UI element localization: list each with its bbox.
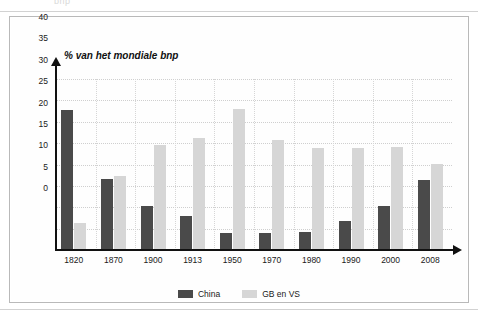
bar-gb-en-vs-1870 [114, 176, 126, 250]
bar-gb-en-vs-1970 [272, 140, 284, 250]
x-tick-label-1990: 1990 [342, 255, 361, 265]
bar-gb-en-vs-1900 [154, 145, 166, 250]
gridline-x-4 [214, 79, 215, 250]
page-text-fragment: bnp [54, 0, 71, 6]
plot-area [56, 79, 452, 250]
bar-china-1950 [220, 233, 232, 250]
legend-label: China [198, 289, 220, 299]
y-axis-tick-labels: 4035302520151050 [24, 17, 48, 188]
y-axis-line [55, 64, 57, 251]
top-divider [0, 11, 478, 12]
gridline-x-7 [333, 79, 334, 250]
x-tick-label-2000: 2000 [381, 255, 400, 265]
bar-gb-en-vs-1980 [312, 148, 324, 250]
legend-item-gb-en-vs[interactable]: GB en VS [242, 289, 300, 299]
x-tick-label-1970: 1970 [262, 255, 281, 265]
bar-china-1990 [339, 221, 351, 250]
bar-china-1870 [101, 179, 113, 250]
chart-legend: ChinaGB en VS [10, 289, 468, 299]
x-tick-label-1870: 1870 [104, 255, 123, 265]
legend-item-china[interactable]: China [178, 289, 220, 299]
bottom-divider [0, 309, 478, 310]
bar-gb-en-vs-2008 [431, 164, 443, 250]
legend-label: GB en VS [262, 289, 300, 299]
gridline-x-9 [412, 79, 413, 250]
gridline-x-1 [96, 79, 97, 250]
legend-swatch-icon [178, 290, 193, 298]
y-tick-label-15: 15 [24, 119, 48, 129]
y-tick-label-40: 40 [24, 12, 48, 22]
chart-title: % van het mondiale bnp [64, 50, 178, 61]
x-tick-label-1900: 1900 [144, 255, 163, 265]
bar-gb-en-vs-1990 [352, 148, 364, 250]
x-tick-label-1820: 1820 [64, 255, 83, 265]
legend-swatch-icon [242, 290, 257, 298]
figure-container: bnp % van het mondiale bnp 4035302520151… [0, 0, 478, 317]
bar-china-1913 [180, 216, 192, 250]
bar-china-1820 [61, 110, 73, 250]
gridline-x-6 [294, 79, 295, 250]
y-axis-arrow-icon [51, 57, 61, 66]
x-tick-label-1980: 1980 [302, 255, 321, 265]
y-tick-label-10: 10 [24, 140, 48, 150]
y-tick-label-5: 5 [24, 162, 48, 172]
y-tick-label-0: 0 [24, 183, 48, 193]
x-tick-label-1950: 1950 [223, 255, 242, 265]
bar-china-1970 [259, 233, 271, 250]
y-tick-label-35: 35 [24, 33, 48, 43]
x-axis-arrow-icon [453, 245, 462, 255]
bar-china-2008 [418, 180, 430, 250]
y-tick-label-30: 30 [24, 55, 48, 65]
y-tick-label-20: 20 [24, 98, 48, 108]
bar-china-2000 [378, 206, 390, 250]
gridline-x-2 [135, 79, 136, 250]
gridline-x-5 [254, 79, 255, 250]
y-tick-label-25: 25 [24, 76, 48, 86]
bar-gb-en-vs-1950 [233, 109, 245, 250]
bar-china-1980 [299, 232, 311, 250]
bar-gb-en-vs-1820 [74, 223, 86, 250]
chart-frame: % van het mondiale bnp 4035302520151050 … [9, 16, 469, 303]
x-tick-label-2008: 2008 [421, 255, 440, 265]
bar-gb-en-vs-2000 [391, 147, 403, 250]
x-axis-line [55, 249, 454, 251]
gridline-x-3 [175, 79, 176, 250]
bar-gb-en-vs-1913 [193, 138, 205, 250]
x-tick-label-1913: 1913 [183, 255, 202, 265]
gridline-x-8 [373, 79, 374, 250]
bar-china-1900 [141, 206, 153, 250]
